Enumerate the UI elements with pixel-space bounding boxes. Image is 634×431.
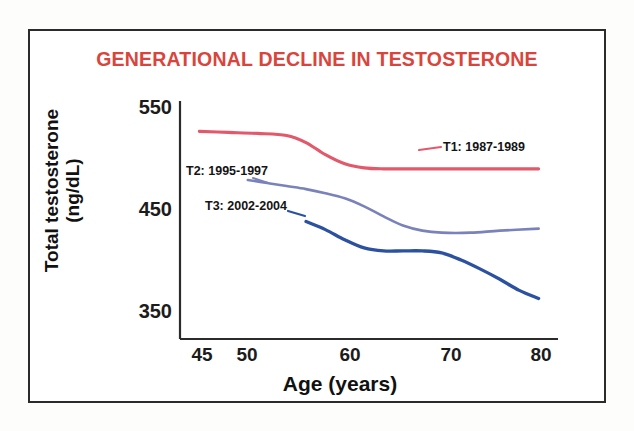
series-label-t2: T2: 1995-1997 <box>186 164 268 178</box>
x-tick-label-80: 80 <box>521 344 561 366</box>
y-axis-title: Total testosterone (ng/dL) <box>42 81 83 301</box>
y-tick-label-350: 350 <box>112 300 172 323</box>
x-tick-label-70: 70 <box>431 344 471 366</box>
series-line-t3 <box>306 222 539 299</box>
leader-line-t1 <box>419 147 441 150</box>
x-axis-title: Age (years) <box>170 372 510 396</box>
plot-area <box>0 0 634 431</box>
series-curves <box>199 131 538 298</box>
leader-line-t3 <box>288 211 305 216</box>
y-axis-title-line2: (ng/dL) <box>63 81 84 301</box>
chart-figure: GENERATIONAL DECLINE IN TESTOSTERONE 550… <box>0 0 634 431</box>
y-tick-label-550: 550 <box>112 96 172 119</box>
series-label-t3: T3: 2002-2004 <box>205 199 287 213</box>
y-tick-label-450: 450 <box>112 198 172 221</box>
series-line-t2 <box>248 180 539 233</box>
x-tick-label-60: 60 <box>330 344 370 366</box>
x-tick-label-50: 50 <box>227 344 267 366</box>
series-label-t1: T1: 1987-1989 <box>443 140 525 154</box>
y-axis-title-line1: Total testosterone <box>42 81 63 301</box>
x-tick-label-45: 45 <box>182 344 222 366</box>
axis-lines <box>180 101 558 339</box>
